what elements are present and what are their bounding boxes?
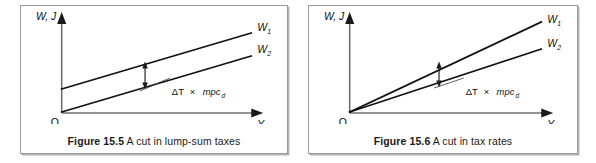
curve-label-w1-subscript: 1	[267, 28, 271, 35]
annotation-mpc-subscript: d	[221, 92, 225, 99]
curve-label-w1-subscript: 1	[557, 20, 561, 27]
annotation-delta-t: ΔT	[466, 86, 478, 97]
figure-caption-number: Figure 15.6	[374, 135, 431, 147]
figure-caption-text: A cut in lump-sum taxes	[127, 135, 241, 147]
x-axis-arrowhead	[251, 108, 263, 117]
gap-arrowhead-up	[436, 62, 442, 69]
figure-panel-15-5: W, J Y O W 1 W 2	[20, 5, 288, 154]
figure-caption-text: A cut in tax rates	[433, 135, 512, 147]
y-axis-arrowhead	[345, 12, 354, 24]
plot-area-15-5: W, J Y O W 1 W 2	[21, 6, 287, 124]
annotation-delta-t: ΔT	[172, 86, 184, 97]
annotation-mpc: mpc	[497, 86, 515, 97]
annotation-mpc-subscript: d	[515, 92, 519, 99]
y-axis-arrowhead	[57, 12, 66, 24]
curve-label-w2-subscript: 2	[556, 44, 561, 51]
annotation-times-symbol: ×	[484, 86, 490, 97]
figure-caption-number: Figure 15.5	[68, 135, 125, 147]
annotation-mpc: mpc	[203, 86, 221, 97]
y-axis-label: W, J	[36, 11, 57, 22]
curve-w2	[350, 49, 542, 112]
x-axis-label: Y	[547, 119, 555, 124]
chart-svg-15-5: W, J Y O W 1 W 2	[21, 6, 287, 124]
y-axis-label: W, J	[324, 11, 345, 22]
figure-caption-15-5: Figure 15.5 A cut in lump-sum taxes	[21, 135, 287, 147]
chart-svg-15-6: W, J Y O W 1 W 2	[309, 6, 577, 124]
x-axis-label: Y	[257, 119, 265, 124]
origin-label: O	[339, 117, 347, 124]
figure-pair: W, J Y O W 1 W 2	[0, 0, 596, 163]
origin-label: O	[51, 117, 59, 124]
figure-caption-15-6: Figure 15.6 A cut in tax rates	[309, 135, 577, 147]
figure-panel-15-6: W, J Y O W 1 W 2	[308, 5, 578, 154]
plot-area-15-6: W, J Y O W 1 W 2	[309, 6, 577, 124]
curve-w1	[350, 22, 542, 112]
curve-w1	[62, 33, 252, 89]
curve-label-w2-subscript: 2	[266, 50, 271, 57]
x-axis-arrowhead	[541, 108, 553, 117]
annotation-times-symbol: ×	[190, 86, 196, 97]
